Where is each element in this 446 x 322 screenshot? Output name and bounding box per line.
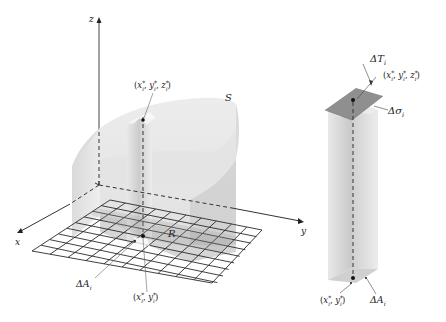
bottom-sample-point (141, 234, 145, 238)
y-axis-label: y (300, 226, 307, 236)
y-axis-arrow-icon (298, 218, 304, 224)
column-front-face (328, 101, 352, 280)
right-top-point-label: (x*i, y*i, z*i) (383, 69, 420, 82)
right-top-point (351, 98, 355, 102)
top-sample-point (141, 118, 145, 122)
left-figure: z (15, 14, 307, 304)
surface-element-label: Δσi (387, 105, 404, 119)
x-axis-label: x (15, 237, 20, 247)
area-element-point (134, 240, 136, 242)
right-bottom-point-label: (x*i, y*i) (320, 294, 345, 307)
z-axis-label: z (88, 14, 94, 24)
surface-area-diagram: z (0, 0, 446, 322)
right-area-element-label: ΔAi (369, 294, 386, 307)
column-side-face (352, 101, 378, 269)
right-bottom-point (351, 276, 355, 280)
right-figure: ΔTi (x*i, y*i, z*i) Δσi (x*i, y*i) ΔAi (320, 53, 420, 307)
top-point-label: (x*i, y*i, z*i) (134, 79, 171, 92)
y-axis (232, 208, 300, 221)
bottom-point-label: (x*i, y*i) (133, 291, 158, 304)
x-axis (21, 204, 70, 231)
tangent-plane-label: ΔTi (369, 53, 386, 67)
z-axis-arrow-icon (97, 17, 102, 23)
surface-s-label: S (225, 92, 232, 103)
region-r-label: R (167, 228, 176, 239)
area-element-label: ΔAi (75, 278, 92, 291)
